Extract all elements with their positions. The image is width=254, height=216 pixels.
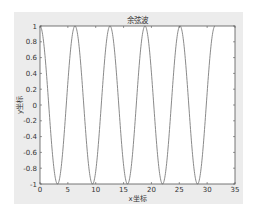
x-tick-label: 15 [119,186,128,194]
x-tick-label: 10 [91,186,100,194]
figure-window: 05101520253035-1-0.8-0.6-0.4-0.200.20.40… [14,12,243,204]
x-tick-label: 0 [38,186,42,194]
y-tick-label: -0.2 [23,117,37,125]
y-tick-label: 0.4 [26,70,38,78]
x-tick-label: 30 [203,186,212,194]
y-tick-label: 0.6 [26,54,38,62]
x-tick-label: 35 [231,186,240,194]
y-tick-label: -0.8 [23,165,37,173]
x-tick-label: 5 [66,186,70,194]
x-axis-label: x坐标 [128,194,146,203]
cosine-plot: 05101520253035-1-0.8-0.6-0.4-0.200.20.40… [14,12,243,204]
axes-area [40,26,235,184]
y-tick-label: 0.2 [26,86,37,94]
chart-title: 余弦波 [127,15,149,25]
y-tick-label: 0 [33,102,37,110]
y-tick-label: -0.4 [23,133,37,141]
x-tick-label: 20 [147,186,156,194]
x-tick-label: 25 [175,186,184,194]
y-tick-label: 1 [33,23,37,31]
y-tick-label: -0.6 [23,149,37,157]
y-tick-label: -1 [30,181,37,189]
y-axis-label: y坐标 [15,96,24,114]
y-tick-label: 0.8 [26,38,37,46]
